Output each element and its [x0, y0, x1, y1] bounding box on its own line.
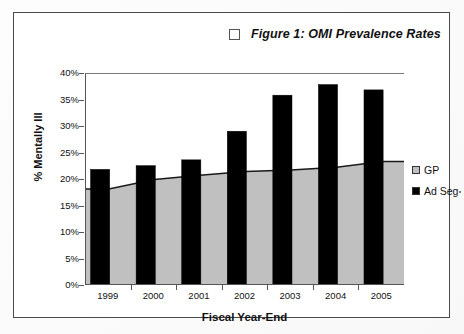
bar-ad-seg — [136, 166, 155, 284]
y-axis-tick-mark — [79, 206, 84, 207]
x-axis-tick-label: 1999 — [97, 290, 118, 301]
figure-frame: Figure 1: OMI Prevalence Rates % Mentall… — [13, 12, 450, 318]
y-axis-tick-label: 5% — [45, 254, 79, 264]
legend-item-label: GP — [424, 164, 439, 176]
legend-item-label: Ad Seg — [424, 185, 458, 197]
x-axis-tick-label: 2004 — [325, 290, 346, 301]
x-axis-tick-mark — [313, 285, 314, 290]
x-axis-tick-label: 2003 — [279, 290, 300, 301]
chart-canvas — [86, 74, 404, 284]
x-axis-tick-label: 2005 — [371, 290, 392, 301]
page-title: Figure 1: OMI Prevalence Rates — [251, 27, 441, 41]
y-axis-tick-mark — [79, 100, 84, 101]
bar-ad-seg — [182, 160, 201, 284]
plot-area — [85, 73, 404, 285]
legend-item: GP — [412, 164, 458, 176]
y-axis-tick-mark — [79, 179, 84, 180]
x-axis-tick-label: 2000 — [143, 290, 164, 301]
x-axis-tick-mark — [222, 285, 223, 290]
y-axis-tick-mark — [79, 153, 84, 154]
y-axis-tick-mark — [79, 126, 84, 127]
x-axis-tick-labels: 1999200020012002200320042005 — [85, 290, 404, 306]
gray-square-swatch — [412, 166, 420, 174]
y-axis-tick-label: 15% — [45, 201, 79, 211]
bar-ad-seg — [91, 169, 110, 284]
y-axis-tick-mark — [79, 259, 84, 260]
y-axis-tick-mark — [79, 232, 84, 233]
y-axis-tick-label: 10% — [45, 227, 79, 237]
x-axis-title: Fiscal Year-End — [85, 311, 404, 323]
figure-title-row: Figure 1: OMI Prevalence Rates — [229, 27, 441, 41]
y-axis-tick-label: 40% — [45, 68, 79, 78]
x-axis-tick-mark — [358, 285, 359, 290]
plot-inner — [86, 74, 404, 284]
y-axis-tick-label: 20% — [45, 174, 79, 184]
bar-ad-seg — [273, 95, 292, 284]
bar-ad-seg — [364, 90, 383, 284]
bar-ad-seg — [227, 131, 246, 284]
y-axis-tick-mark — [79, 73, 84, 74]
bar-ad-seg — [318, 85, 337, 284]
y-axis-tick-labels: 0%5%10%15%20%25%30%35%40% — [41, 73, 79, 285]
stray-ink-dot — [459, 191, 461, 193]
y-axis-tick-label: 30% — [45, 121, 79, 131]
x-axis-tick-mark — [176, 285, 177, 290]
chart-legend: GPAd Seg — [412, 164, 458, 206]
y-axis-tick-label: 25% — [45, 148, 79, 158]
y-axis-tick-label: 0% — [45, 280, 79, 290]
x-axis-tick-mark — [131, 285, 132, 290]
x-axis-tick-label: 2001 — [188, 290, 209, 301]
black-square-swatch — [412, 187, 420, 195]
empty-square-marker-icon — [229, 29, 240, 40]
legend-item: Ad Seg — [412, 185, 458, 197]
x-axis-tick-mark — [267, 285, 268, 290]
y-axis-tick-label: 35% — [45, 95, 79, 105]
x-axis-tick-label: 2002 — [234, 290, 255, 301]
y-axis-tick-mark — [79, 285, 84, 286]
